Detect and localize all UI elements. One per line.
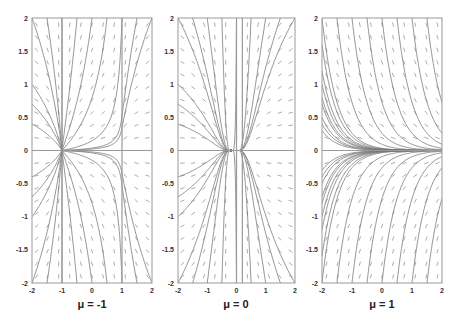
x-tick-label: 2 <box>440 287 444 294</box>
x-tick-label: 1 <box>264 287 268 294</box>
x-tick-label: -2 <box>175 287 181 294</box>
panel-label: μ = -1 <box>77 298 106 310</box>
y-tick-label: 0.5 <box>164 114 174 121</box>
x-tick-label: -2 <box>319 287 325 294</box>
x-tick-label: 2 <box>150 287 154 294</box>
y-tick-label: -2 <box>22 280 28 287</box>
y-tick-label: -1 <box>312 213 318 220</box>
y-tick-label: 2 <box>170 15 174 22</box>
x-tick-label: 1 <box>410 287 414 294</box>
y-tick-label: -2 <box>168 280 174 287</box>
panel-label: μ = 1 <box>369 298 394 310</box>
y-tick-label: -1.5 <box>306 246 318 253</box>
y-tick-label: 1.5 <box>164 48 174 55</box>
x-tick-label: 0 <box>90 287 94 294</box>
x-tick-label: 0 <box>380 287 384 294</box>
y-tick-label: 0.5 <box>18 114 28 121</box>
y-tick-label: -0.5 <box>162 180 174 187</box>
y-tick-label: 0 <box>24 147 28 154</box>
x-tick-label: 2 <box>293 287 297 294</box>
y-tick-label: 1 <box>170 81 174 88</box>
y-tick-label: 1 <box>24 81 28 88</box>
y-tick-label: 2 <box>314 15 318 22</box>
x-tick-label: 1 <box>120 287 124 294</box>
y-tick-label: -1 <box>22 213 28 220</box>
y-tick-label: 0.5 <box>308 114 318 121</box>
y-tick-label: -1.5 <box>16 246 28 253</box>
x-tick-label: 0 <box>235 287 239 294</box>
x-tick-label: -1 <box>59 287 65 294</box>
panel-3: -2-1012-2-1.5-1-0.500.511.52μ = 1 <box>306 15 444 311</box>
y-tick-label: -2 <box>312 280 318 287</box>
x-tick-label: -2 <box>29 287 35 294</box>
y-tick-label: -0.5 <box>306 180 318 187</box>
x-tick-label: -1 <box>204 287 210 294</box>
y-tick-label: 2 <box>24 15 28 22</box>
y-tick-label: 1.5 <box>308 48 318 55</box>
y-tick-label: 0 <box>170 147 174 154</box>
y-tick-label: 1 <box>314 81 318 88</box>
y-tick-label: -1 <box>168 213 174 220</box>
y-tick-label: -0.5 <box>16 180 28 187</box>
x-tick-label: -1 <box>349 287 355 294</box>
panel-2: -2-1012-2-1.5-1-0.500.511.52μ = 0 <box>162 15 297 311</box>
panel-label: μ = 0 <box>223 298 248 310</box>
panel-1: -2-1012-2-1.5-1-0.500.511.52μ = -1 <box>16 15 154 311</box>
phase-portrait-figure: -2-1012-2-1.5-1-0.500.511.52μ = -1-2-101… <box>0 0 460 323</box>
y-tick-label: 0 <box>314 147 318 154</box>
y-tick-label: 1.5 <box>18 48 28 55</box>
y-tick-label: -1.5 <box>162 246 174 253</box>
